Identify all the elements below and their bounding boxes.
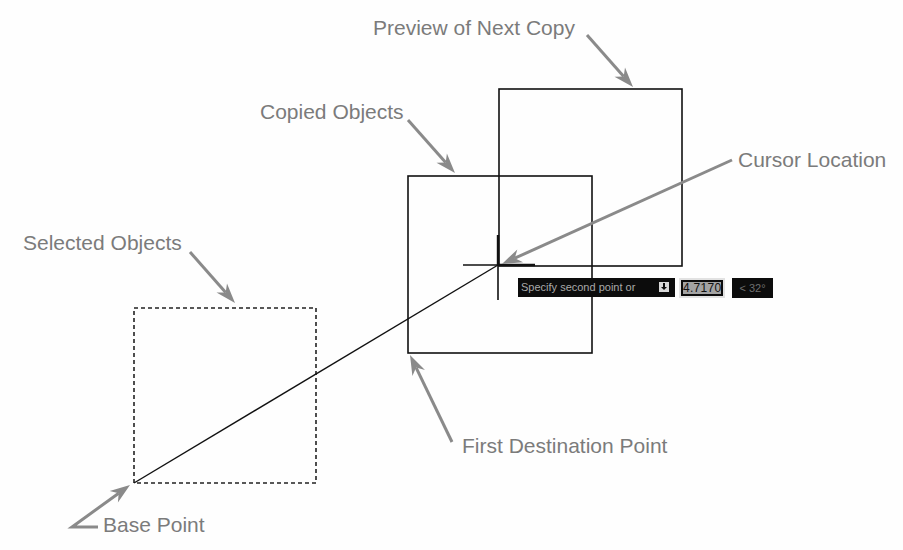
label-base-point: Base Point — [103, 513, 205, 537]
arrow-copied-objects-icon — [408, 120, 455, 173]
label-selected-objects: Selected Objects — [23, 231, 182, 255]
label-cursor-location: Cursor Location — [738, 148, 886, 172]
prompt-text: Specify second point or — [521, 281, 635, 293]
arrow-first-destination-point-icon — [410, 355, 452, 442]
label-first-destination-point: First Destination Point — [462, 434, 667, 458]
label-copied-objects: Copied Objects — [260, 100, 404, 124]
arrow-preview-next-copy-icon — [587, 35, 633, 87]
drawing-canvas[interactable] — [0, 0, 903, 550]
down-arrow-icon[interactable] — [659, 282, 669, 292]
preview-copy-rect — [499, 89, 682, 266]
distance-input[interactable]: 4.7170 — [679, 278, 725, 298]
angle-input[interactable]: < 32° — [732, 278, 773, 298]
dynamic-input-prompt: Specify second point or — [518, 278, 675, 297]
label-preview-next-copy: Preview of Next Copy — [373, 16, 575, 40]
selected-objects-rect — [134, 308, 316, 483]
arrow-selected-objects-icon — [190, 252, 235, 303]
distance-value[interactable]: 4.7170 — [683, 282, 721, 294]
